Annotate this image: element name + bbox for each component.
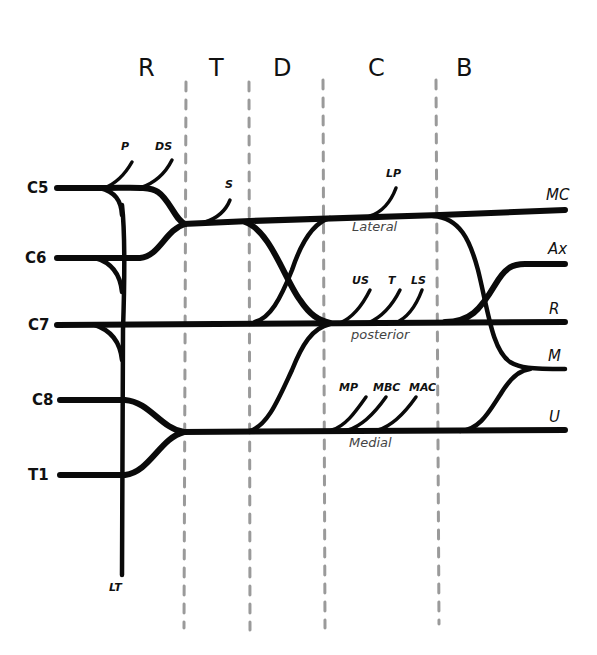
dorsal-scapular-branch [140, 160, 172, 188]
terminal-label-radial: R [549, 302, 559, 317]
root-label-t1: T1 [28, 468, 49, 483]
lateral-root-of-median [433, 216, 565, 369]
branch-label-upper-subscapular: US [352, 275, 369, 286]
thoracodorsal-branch [368, 290, 400, 323]
upper-posterior-division [245, 222, 330, 323]
root-label-c6: C6 [25, 251, 46, 266]
terminal-label-musculocutaneous: MC [546, 188, 569, 203]
branch-label-long-thoracic: LT [109, 582, 122, 593]
medial-root-of-median [460, 369, 530, 431]
suprascapular-branch [205, 200, 230, 222]
section-label-branches: B [456, 56, 472, 80]
divider-cords-branches [436, 80, 439, 624]
phrenic-branch [104, 162, 132, 188]
branch-label-suprascapular: S [225, 179, 233, 190]
c6-long-thoracic-branch [95, 258, 122, 292]
terminal-label-median: M [548, 349, 561, 364]
section-label-cords: C [368, 56, 385, 80]
branch-label-thoracodorsal: T [388, 275, 396, 286]
c6-root [57, 224, 185, 258]
divider-roots-trunks [184, 82, 186, 628]
brachial-plexus-diagram [0, 0, 597, 655]
cord-label-medial: Medial [349, 436, 392, 449]
middle-anterior-division [255, 218, 330, 322]
section-label-roots: R [138, 56, 155, 80]
lateral-pectoral-branch [370, 188, 396, 216]
lateral-cord [440, 210, 565, 215]
upper-anterior-division [250, 215, 440, 221]
root-label-c8: C8 [32, 393, 53, 408]
branch-label-lower-subscapular: LS [411, 275, 426, 286]
root-label-c5: C5 [27, 181, 48, 196]
lower-trunk-medial-cord [182, 430, 565, 432]
branch-label-medial-brachial-cutaneous: MBC [373, 382, 400, 393]
root-label-c7: C7 [28, 318, 49, 333]
branch-label-phrenic: P [121, 141, 129, 152]
section-label-divisions: D [273, 56, 291, 80]
c7-root-middle-trunk [57, 322, 565, 325]
terminal-label-ulnar: U [549, 410, 560, 425]
c7-long-thoracic-branch [95, 325, 122, 360]
section-dividers [184, 80, 439, 630]
terminal-label-axillary: Ax [548, 242, 567, 257]
upper-subscapular-branch [340, 290, 370, 323]
divider-trunks-divisions [249, 82, 250, 630]
axillary-nerve [445, 264, 565, 322]
section-label-trunks: T [209, 56, 224, 80]
lower-posterior-division [250, 324, 330, 431]
upper-trunk [183, 221, 250, 224]
branch-label-dorsal-scapular: DS [155, 141, 172, 152]
branch-label-medial-antebrachial-cutaneous: MAC [409, 382, 436, 393]
branch-label-medial-pectoral: MP [339, 382, 358, 393]
branch-label-lateral-pectoral: LP [386, 168, 401, 179]
cord-label-lateral: Lateral [352, 220, 397, 233]
c5-long-thoracic-branch [100, 188, 122, 215]
divider-divisions-cords [323, 80, 325, 628]
cord-label-posterior: posterior [351, 328, 409, 341]
